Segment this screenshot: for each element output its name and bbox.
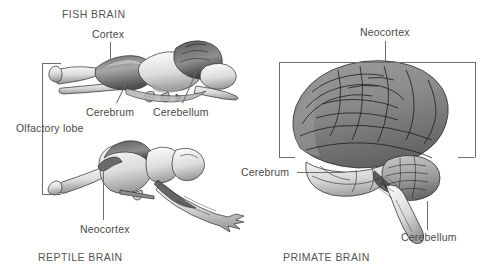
label-neocortex-reptile: Neocortex [80,223,130,235]
leader-neocortex-primate [385,41,386,62]
label-cerebellum-primate: Cerebellum [401,231,457,243]
caption-primate-brain: PRIMATE BRAIN [283,251,370,263]
label-cerebellum-fish: Cerebellum [153,106,209,118]
bracket-foot-left-primate [279,157,295,158]
label-olfactory-lobe: Olfactory lobe [16,122,84,134]
label-neocortex-primate: Neocortex [360,26,410,38]
label-cortex: Cortex [92,28,124,40]
reptile-brain-illustration [48,141,244,232]
leader-cerebrum-primate [297,172,345,173]
leader-neocortex-reptile [103,163,104,220]
caption-reptile-brain: REPTILE BRAIN [38,251,123,263]
label-cerebrum-fish: Cerebrum [86,106,134,118]
bracket-foot-right-primate [458,157,474,158]
caption-fish-brain: FISH BRAIN [62,8,125,20]
label-cerebrum-primate: Cerebrum [241,166,289,178]
figure-canvas: FISH BRAIN Cortex Cerebrum Cerebellum Ol… [0,0,484,279]
leader-cortex [110,42,111,60]
leader-cerebellum-primate [427,201,428,230]
fish-brain-illustration [49,41,238,102]
bracket-neocortex-primate [279,62,476,158]
